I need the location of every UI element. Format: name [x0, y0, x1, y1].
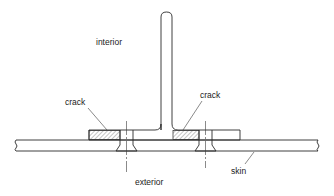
stringer	[89, 12, 240, 140]
fastener-right	[195, 121, 216, 168]
label-crack-left: crack	[65, 97, 86, 107]
skin-panel	[15, 140, 319, 151]
crack-region-right	[173, 131, 199, 140]
leader-skin	[245, 152, 254, 164]
break-line-left	[15, 140, 17, 151]
break-line-right	[317, 140, 319, 151]
leader-crack-right	[183, 101, 202, 130]
label-crack-right: crack	[200, 90, 221, 100]
crack-region-left	[89, 131, 120, 140]
label-exterior: exterior	[135, 177, 164, 187]
label-skin: skin	[231, 166, 246, 176]
joint-diagram: interior crack crack skin exterior	[0, 0, 334, 196]
label-interior: interior	[96, 37, 122, 47]
leader-crack-left	[88, 108, 107, 130]
fastener-left	[116, 121, 137, 172]
